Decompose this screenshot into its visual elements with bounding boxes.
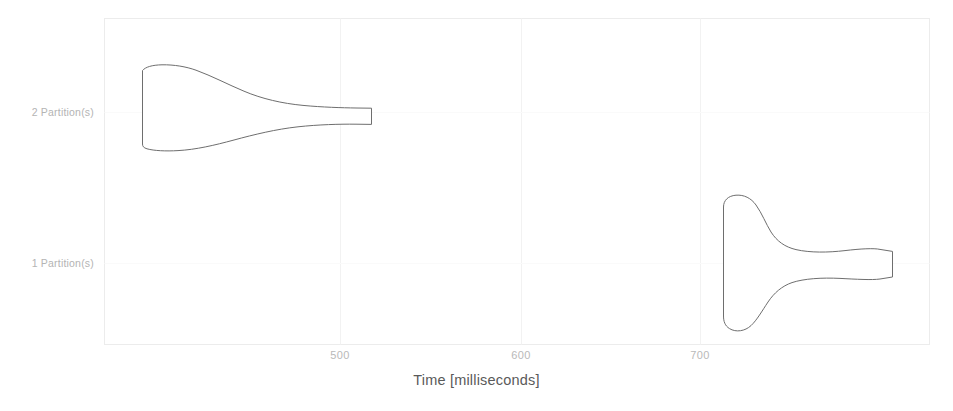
x-gridlines xyxy=(341,19,701,345)
category-label-1-partitions: 1 Partition(s) xyxy=(28,257,94,269)
x-tick-label-700: 700 xyxy=(690,349,709,361)
x-axis-title: Time [milliseconds] xyxy=(0,372,953,388)
violin-shape-2-partitions xyxy=(143,65,372,151)
plot-area-border xyxy=(105,19,930,345)
plot-canvas xyxy=(0,0,953,411)
violin-shape-1-partitions xyxy=(724,195,893,331)
violin-chart: 2 Partition(s) 1 Partition(s) 500 600 70… xyxy=(0,0,953,411)
x-tick-label-600: 600 xyxy=(511,349,530,361)
category-label-2-partitions: 2 Partition(s) xyxy=(28,106,94,118)
x-tick-label-500: 500 xyxy=(330,349,349,361)
